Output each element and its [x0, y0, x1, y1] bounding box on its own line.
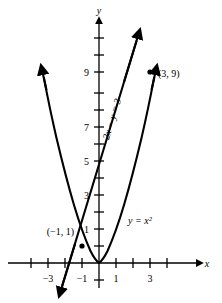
x-tick-label-pos1: 1: [114, 273, 119, 284]
x-axis: −3 −1 1 3 x: [8, 258, 210, 284]
y-tick-label-5: 5: [84, 156, 89, 167]
parabola-label: y = x²: [127, 215, 153, 226]
y-tick-label-1: 1: [84, 224, 89, 235]
y-axis: 1 3 5 7 9 y: [84, 5, 104, 288]
x-axis-label: x: [204, 258, 210, 269]
x-tick-label-neg3: −3: [43, 273, 54, 284]
line-label: 2x − y = 3: [100, 97, 123, 141]
y-tick-label-9: 9: [84, 67, 89, 78]
graph-figure: −3 −1 1 3 x: [0, 0, 222, 303]
line-arrow-up: [124, 36, 138, 82]
y-axis-label: y: [96, 5, 102, 16]
y-tick-label-7: 7: [84, 122, 89, 133]
intersection-dot-high: [147, 69, 152, 74]
point-label-high: (3, 9): [158, 68, 180, 80]
point-label-low: (−1, 1): [47, 226, 74, 238]
x-tick-label-neg1: −1: [77, 273, 88, 284]
intersection-dot-low: [79, 243, 84, 248]
parabola-arrow-left: [43, 72, 47, 90]
line-arrow-down: [61, 244, 75, 290]
coordinate-plane: −3 −1 1 3 x: [0, 0, 222, 303]
parabola-arrow-right: [152, 72, 156, 90]
x-tick-label-pos3: 3: [148, 273, 153, 284]
